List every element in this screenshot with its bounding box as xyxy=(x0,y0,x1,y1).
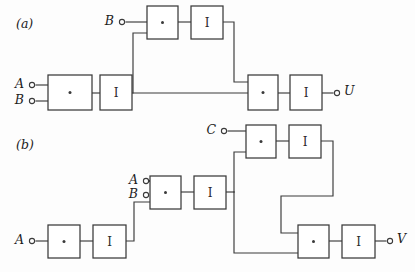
inverter-glyph: I xyxy=(205,16,210,30)
wire-w-a-branch-up xyxy=(133,33,147,93)
inverter-glyph: I xyxy=(304,86,309,100)
inverter-glyph: I xyxy=(208,186,213,200)
terminal-ring-icon xyxy=(143,178,148,183)
terminal-term-b-A-mid: A xyxy=(128,172,149,187)
wire-w-a-top-feedback xyxy=(223,22,248,82)
signal-label-b: B xyxy=(104,13,114,28)
gate-b-inv-left: I xyxy=(93,225,126,258)
gate-a-and-left xyxy=(48,75,92,110)
terminal-term-a-U: U xyxy=(334,83,355,98)
gate-b-and-out xyxy=(298,225,329,258)
and-dot-icon xyxy=(63,240,66,243)
signal-label-c: C xyxy=(206,122,216,137)
gate-b-inv-c: I xyxy=(289,125,321,158)
terminal-term-b-V: V xyxy=(387,231,408,246)
wire-w-b-low-to-mid xyxy=(126,202,150,241)
and-dot-icon xyxy=(164,191,167,194)
wire-w-b-trunk-down xyxy=(234,192,298,253)
terminal-ring-icon xyxy=(29,238,34,243)
terminal-ring-icon xyxy=(387,238,392,243)
inverter-glyph: I xyxy=(356,235,361,249)
terminal-ring-icon xyxy=(119,19,124,24)
gate-b-inv-mid: I xyxy=(194,176,226,209)
terminal-term-b-B-mid: B xyxy=(128,186,149,201)
terminal-layer: BABUCABAV xyxy=(14,13,408,247)
gate-a-and-top xyxy=(147,6,178,39)
and-dot-icon xyxy=(262,91,265,94)
and-dot-icon xyxy=(260,140,263,143)
panel-label-panel-a: (a) xyxy=(16,16,33,31)
terminal-ring-icon xyxy=(143,192,148,197)
circuit-figure: IIIIIII BABUCABAV (a)(b) xyxy=(0,0,415,272)
terminal-term-a-B-top: B xyxy=(104,13,125,28)
terminal-term-b-A-low: A xyxy=(14,232,35,247)
and-dot-icon xyxy=(161,21,164,24)
circuit-canvas: IIIIIII BABUCABAV (a)(b) xyxy=(0,0,415,272)
signal-label-u: U xyxy=(344,83,355,98)
gate-b-and-mid xyxy=(150,176,181,209)
signal-label-b: B xyxy=(128,186,138,201)
gate-a-inv-top: I xyxy=(191,6,223,39)
gate-b-inv-out: I xyxy=(342,225,375,258)
terminal-term-b-C: C xyxy=(206,122,226,137)
gate-b-and-c xyxy=(246,125,276,158)
gate-b-and-left xyxy=(48,225,80,258)
signal-label-a: A xyxy=(14,232,24,247)
signal-label-a: A xyxy=(128,172,138,187)
inverter-glyph: I xyxy=(114,86,119,100)
gate-a-and-out xyxy=(248,75,278,110)
inverter-glyph: I xyxy=(107,235,112,249)
wire-layer xyxy=(36,22,386,253)
and-dot-icon xyxy=(69,91,72,94)
gate-a-inv-left: I xyxy=(100,75,132,110)
gate-a-inv-out: I xyxy=(290,75,322,110)
panel-label-panel-b: (b) xyxy=(16,137,34,152)
signal-label-b: B xyxy=(14,92,24,107)
terminal-term-a-B: B xyxy=(14,92,35,107)
and-dot-icon xyxy=(312,240,315,243)
wire-w-b-trunk-up xyxy=(234,152,246,192)
signal-label-v: V xyxy=(397,231,408,246)
inverter-glyph: I xyxy=(303,135,308,149)
terminal-term-a-A: A xyxy=(14,76,35,91)
terminal-ring-icon xyxy=(221,128,226,133)
terminal-ring-icon xyxy=(29,82,34,87)
signal-label-a: A xyxy=(14,76,24,91)
terminal-ring-icon xyxy=(29,98,34,103)
terminal-ring-icon xyxy=(334,90,339,95)
